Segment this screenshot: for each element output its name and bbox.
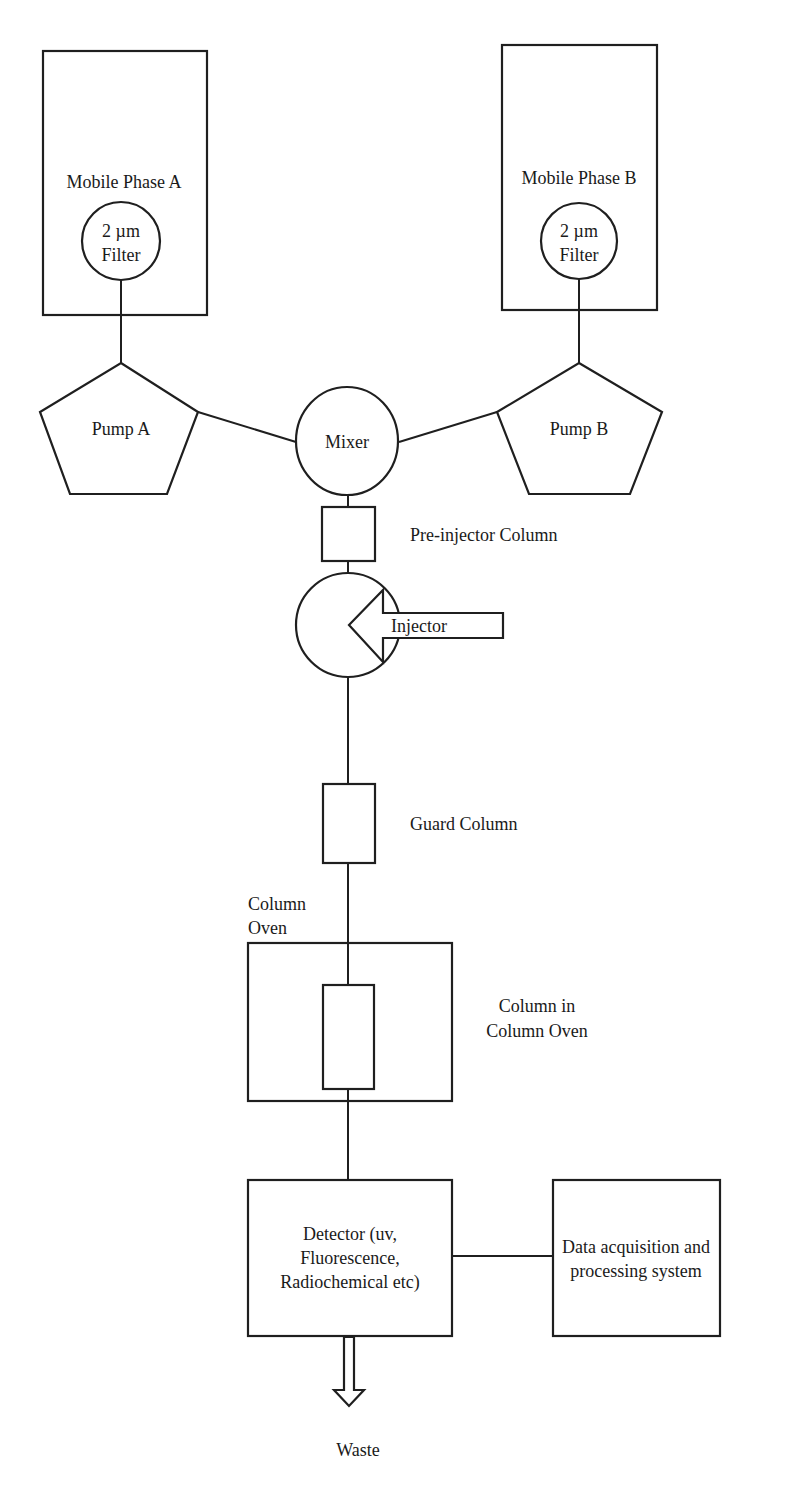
filter-b: 2 µm Filter	[541, 203, 617, 279]
pump-a: Pump A	[40, 363, 198, 494]
line-pump-a-mixer	[198, 412, 296, 442]
column-in-oven-label-line2: Column Oven	[486, 1021, 588, 1041]
pre-injector-column-label: Pre-injector Column	[410, 525, 557, 545]
column-in-oven: Column in Column Oven	[323, 985, 588, 1089]
filter-b-size: 2 µm	[560, 221, 598, 241]
mobile-phase-a-label: Mobile Phase A	[67, 172, 182, 192]
guard-column-label: Guard Column	[410, 814, 518, 834]
data-system-label-line1: Data acquisition and	[562, 1237, 710, 1257]
data-acquisition-system: Data acquisition and processing system	[553, 1180, 720, 1336]
pump-b: Pump B	[497, 363, 662, 494]
column-oven-label-line2: Oven	[248, 918, 287, 938]
filter-b-label: Filter	[560, 245, 599, 265]
column-oven-label-line1: Column	[248, 894, 306, 914]
detector-label-line1: Detector (uv,	[303, 1224, 397, 1245]
detector: Detector (uv, Fluorescence, Radiochemica…	[248, 1180, 452, 1336]
injector: Injector	[296, 573, 503, 677]
pump-a-label: Pump A	[92, 419, 151, 439]
line-pump-b-mixer	[399, 412, 497, 442]
filter-a-size: 2 µm	[102, 221, 140, 241]
pump-b-label: Pump B	[550, 419, 609, 439]
guard-column: Guard Column	[323, 784, 518, 863]
detector-label-line3: Radiochemical etc)	[280, 1272, 419, 1293]
hplc-diagram: Mobile Phase A 2 µm Filter Mobile Phase …	[0, 0, 797, 1487]
injector-label: Injector	[391, 616, 447, 636]
waste-arrow-icon	[334, 1337, 364, 1406]
data-system-label-line2: processing system	[570, 1261, 701, 1281]
waste-label: Waste	[336, 1440, 380, 1460]
pre-injector-column: Pre-injector Column	[322, 507, 557, 561]
filter-a: 2 µm Filter	[82, 202, 160, 280]
filter-a-label: Filter	[102, 245, 141, 265]
mixer-label: Mixer	[325, 432, 369, 452]
column-in-oven-label-line1: Column in	[499, 996, 576, 1016]
mixer: Mixer	[296, 387, 398, 495]
mobile-phase-b-label: Mobile Phase B	[522, 168, 637, 188]
detector-label-line2: Fluorescence,	[300, 1248, 399, 1268]
